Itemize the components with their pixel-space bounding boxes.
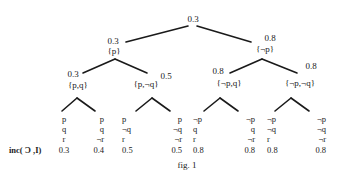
svg-text:¬q: ¬q <box>317 124 327 134</box>
decision-tree-diagram: 0.3 0.3 {p} 0.8 {¬p} 0.3 {p,q} 0.5 {p,¬q… <box>0 0 339 182</box>
leaf-8: ¬p ¬q ¬r 0.8 <box>315 114 326 155</box>
edge-pnq-l <box>136 98 152 111</box>
node-notp-set: {¬p} <box>256 44 274 54</box>
edge-np-npnq <box>262 59 297 73</box>
svg-text:p: p <box>100 114 104 124</box>
edge-p-pnq <box>115 59 147 73</box>
edge-np-npq <box>230 59 262 73</box>
svg-text:p: p <box>62 114 66 124</box>
node-npnq-value: 0.8 <box>305 61 317 71</box>
edge-npnq-l <box>275 98 291 111</box>
leaf-1: p q r 0.3 <box>59 114 70 155</box>
node-pnq-set: {p,¬q} <box>134 79 159 89</box>
svg-text:0.8: 0.8 <box>244 145 255 155</box>
svg-text:0.8: 0.8 <box>267 145 278 155</box>
svg-text:¬p: ¬p <box>246 114 255 124</box>
node-notp-value: 0.8 <box>264 33 276 43</box>
edge-root-left <box>126 26 188 42</box>
svg-text:¬p: ¬p <box>267 114 276 124</box>
svg-text:¬r: ¬r <box>174 134 182 144</box>
node-p-set: {p} <box>107 46 120 56</box>
edge-npq-l <box>204 98 220 111</box>
edge-npq-r <box>220 98 238 111</box>
node-npnq-set: {¬p,¬q} <box>285 78 315 88</box>
edge-root-right <box>197 26 251 42</box>
edge-pnq-r <box>152 98 170 111</box>
svg-text:q: q <box>193 124 198 134</box>
svg-text:r: r <box>267 134 270 144</box>
svg-text:r: r <box>122 134 125 144</box>
svg-text:0.4: 0.4 <box>93 145 104 155</box>
svg-text:p: p <box>178 114 182 124</box>
node-p-value: 0.3 <box>107 36 119 46</box>
edge-npnq-r <box>291 98 309 111</box>
leaf-4: p ¬q ¬r 0.5 <box>171 114 182 155</box>
figure-caption: fig. 1 <box>178 160 197 170</box>
node-pnq-value: 0.5 <box>160 71 172 81</box>
svg-text:¬p: ¬p <box>193 114 202 124</box>
svg-text:¬r: ¬r <box>96 134 104 144</box>
edge-pq-l <box>62 98 77 111</box>
node-npq-value: 0.8 <box>212 66 224 76</box>
svg-text:0.5: 0.5 <box>122 145 133 155</box>
inc-row-label: inc( Ɔ ,I) <box>9 145 42 155</box>
svg-text:¬q: ¬q <box>122 124 132 134</box>
svg-text:0.8: 0.8 <box>193 145 204 155</box>
leaf-6: ¬p q ¬r 0.8 <box>244 114 255 155</box>
svg-text:q: q <box>62 124 67 134</box>
edge-pq-r <box>77 98 95 111</box>
svg-text:¬r: ¬r <box>318 134 326 144</box>
svg-text:0.3: 0.3 <box>59 145 70 155</box>
svg-text:¬q: ¬q <box>173 124 183 134</box>
svg-text:p: p <box>122 114 126 124</box>
svg-text:0.5: 0.5 <box>171 145 182 155</box>
svg-text:r: r <box>193 134 196 144</box>
svg-text:q: q <box>251 124 256 134</box>
svg-text:0.8: 0.8 <box>315 145 326 155</box>
leaf-5: ¬p q r 0.8 <box>193 114 204 155</box>
node-pq-value: 0.3 <box>67 69 79 79</box>
svg-text:q: q <box>100 124 105 134</box>
leaf-3: p ¬q r 0.5 <box>122 114 133 155</box>
node-npq-set: {¬p,q} <box>217 78 242 88</box>
leaf-7: ¬p ¬q r 0.8 <box>267 114 278 155</box>
svg-text:¬r: ¬r <box>247 134 255 144</box>
svg-text:r: r <box>63 134 66 144</box>
svg-text:¬q: ¬q <box>267 124 277 134</box>
node-pq-set: {p,q} <box>68 80 88 90</box>
edge-p-pq <box>83 59 115 73</box>
leaf-2: p q ¬r 0.4 <box>93 114 104 155</box>
root-value: 0.3 <box>187 14 199 24</box>
svg-text:¬p: ¬p <box>317 114 326 124</box>
